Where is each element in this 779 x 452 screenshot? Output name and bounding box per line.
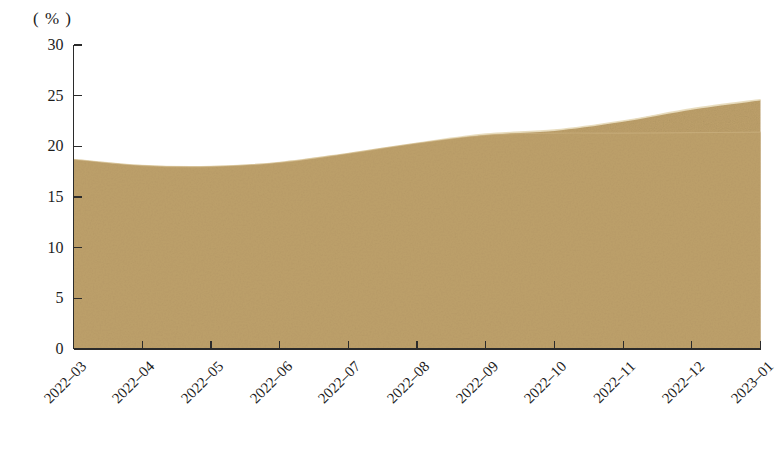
y-tick-label: 10 [28,239,64,257]
y-tick-label: 30 [28,36,64,54]
y-tick-label: 15 [28,188,64,206]
area-series-2 [74,132,761,349]
area-chart: ( % ) 05101 [0,0,779,452]
series-layer [74,100,761,349]
y-tick-label: 5 [28,289,64,307]
y-tick-label: 20 [28,137,64,155]
y-tick-label: 0 [28,340,64,358]
y-tick-label: 25 [28,87,64,105]
chart-plot-area [0,0,779,452]
